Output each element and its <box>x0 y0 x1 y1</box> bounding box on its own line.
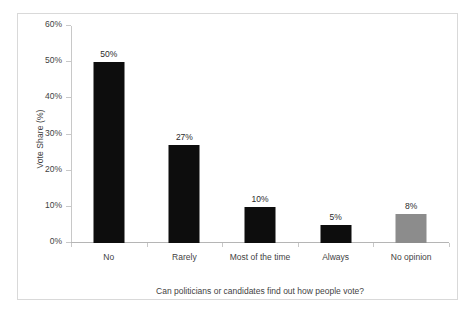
x-axis-title: Can politicians or candidates find out h… <box>71 286 449 296</box>
bar-value-label: 27% <box>176 132 193 142</box>
x-axis-category-label: Rarely <box>172 252 197 262</box>
bar-value-label: 5% <box>329 212 341 222</box>
bar[interactable]: 50% <box>93 62 124 243</box>
y-axis-tick-label: 10% <box>22 200 62 210</box>
plot-area: 0%10%20%30%40%50%60% 50%No27%Rarely10%Mo… <box>71 26 449 243</box>
bar-group: 8%No opinion <box>373 26 449 243</box>
x-axis-tick <box>449 243 450 247</box>
bar[interactable]: 27% <box>169 145 200 243</box>
bar[interactable]: 5% <box>320 225 351 243</box>
y-axis-tick-label: 0% <box>22 236 62 246</box>
y-axis-tick-label: 30% <box>22 128 62 138</box>
x-axis-tick <box>373 243 374 247</box>
x-axis-tick <box>222 243 223 247</box>
chart-frame: Vote Share (%) 0%10%20%30%40%50%60% 50%N… <box>17 13 458 300</box>
y-axis-tick-label: 40% <box>22 91 62 101</box>
bar[interactable]: 8% <box>396 214 427 243</box>
bar-value-label: 8% <box>405 201 417 211</box>
x-axis-category-label: Always <box>322 252 349 262</box>
y-axis-tick-label: 60% <box>22 19 62 29</box>
bar-group: 50%No <box>71 26 147 243</box>
bar-group: 5%Always <box>298 26 374 243</box>
x-axis-category-label: Most of the time <box>230 252 290 262</box>
x-axis-category-label: No <box>103 252 114 262</box>
bar-value-label: 10% <box>251 194 268 204</box>
x-axis-tick <box>298 243 299 247</box>
bar-value-label: 50% <box>100 49 117 59</box>
bar-series: 50%No27%Rarely10%Most of the time5%Alway… <box>71 26 449 243</box>
x-axis-category-label: No opinion <box>391 252 432 262</box>
bar[interactable]: 10% <box>244 207 275 243</box>
bar-group: 27%Rarely <box>147 26 223 243</box>
y-axis-tick-label: 50% <box>22 55 62 65</box>
chart-container: Vote Share (%) 0%10%20%30%40%50%60% 50%N… <box>0 0 476 321</box>
x-axis-tick <box>71 243 72 247</box>
y-axis-tick-label: 20% <box>22 164 62 174</box>
x-axis-tick <box>147 243 148 247</box>
bar-group: 10%Most of the time <box>222 26 298 243</box>
